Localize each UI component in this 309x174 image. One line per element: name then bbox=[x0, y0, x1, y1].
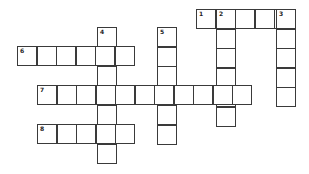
crossword-cell[interactable] bbox=[97, 144, 117, 164]
crossword-cell[interactable] bbox=[157, 66, 177, 86]
crossword-cell[interactable]: 6 bbox=[17, 46, 37, 66]
crossword-cell[interactable] bbox=[213, 85, 233, 105]
crossword-cell[interactable] bbox=[96, 124, 116, 144]
crossword-cell[interactable] bbox=[96, 85, 116, 105]
crossword-cell[interactable] bbox=[57, 124, 77, 144]
crossword-cell[interactable] bbox=[235, 9, 255, 29]
crossword-cell[interactable] bbox=[76, 85, 96, 105]
crossword-cell[interactable] bbox=[97, 66, 117, 86]
crossword-cell[interactable] bbox=[115, 85, 135, 105]
crossword-cell[interactable] bbox=[216, 48, 236, 68]
crossword-cell[interactable] bbox=[37, 46, 57, 66]
crossword-cell[interactable] bbox=[157, 125, 177, 145]
crossword-cell[interactable] bbox=[57, 85, 77, 105]
crossword-cell[interactable] bbox=[276, 48, 296, 68]
crossword-cell[interactable] bbox=[255, 9, 275, 29]
crossword-cell[interactable] bbox=[193, 85, 213, 105]
crossword-grid: 12345678 bbox=[0, 0, 309, 174]
clue-number: 8 bbox=[40, 126, 44, 132]
crossword-cell[interactable]: 7 bbox=[37, 85, 57, 105]
crossword-cell[interactable] bbox=[232, 85, 252, 105]
crossword-cell[interactable]: 2 bbox=[216, 9, 236, 29]
crossword-cell[interactable] bbox=[276, 29, 296, 49]
crossword-cell[interactable] bbox=[276, 68, 296, 88]
crossword-cell[interactable] bbox=[276, 87, 296, 107]
crossword-cell[interactable] bbox=[157, 47, 177, 67]
crossword-cell[interactable] bbox=[157, 105, 177, 125]
crossword-cell[interactable] bbox=[56, 46, 76, 66]
crossword-cell[interactable]: 5 bbox=[157, 27, 177, 47]
clue-number: 2 bbox=[219, 11, 223, 17]
crossword-cell[interactable] bbox=[216, 29, 236, 49]
crossword-cell[interactable] bbox=[115, 124, 135, 144]
crossword-cell[interactable] bbox=[174, 85, 194, 105]
crossword-cell[interactable] bbox=[76, 46, 96, 66]
crossword-cell[interactable] bbox=[95, 46, 115, 66]
clue-number: 3 bbox=[279, 11, 283, 17]
crossword-cell[interactable] bbox=[115, 46, 135, 66]
clue-number: 7 bbox=[40, 87, 44, 93]
crossword-cell[interactable] bbox=[154, 85, 174, 105]
clue-number: 4 bbox=[100, 29, 104, 35]
crossword-cell[interactable] bbox=[76, 124, 96, 144]
crossword-cell[interactable]: 3 bbox=[276, 9, 296, 29]
crossword-cell[interactable] bbox=[97, 105, 117, 125]
clue-number: 1 bbox=[199, 11, 203, 17]
crossword-cell[interactable]: 1 bbox=[196, 9, 216, 29]
crossword-cell[interactable]: 4 bbox=[97, 27, 117, 47]
clue-number: 6 bbox=[20, 48, 24, 54]
crossword-cell[interactable] bbox=[216, 107, 236, 127]
clue-number: 5 bbox=[160, 29, 164, 35]
crossword-cell[interactable] bbox=[135, 85, 155, 105]
crossword-cell[interactable]: 8 bbox=[37, 124, 57, 144]
